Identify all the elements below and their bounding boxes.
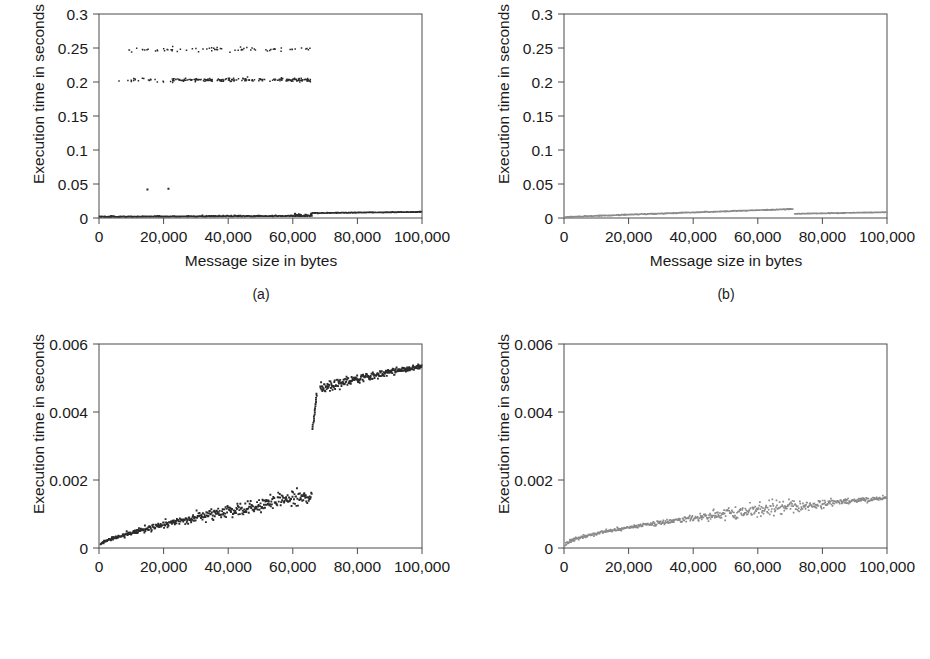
y-tick-label: 0.3: [531, 6, 553, 23]
y-tick-label: 0.25: [523, 40, 553, 57]
y-tick-label: 0.006: [49, 336, 88, 353]
scatter-points: [794, 211, 887, 215]
panel-a: 00.050.10.150.20.250.3020,00040,00060,00…: [0, 0, 465, 329]
scatter-points: [312, 393, 318, 430]
panel-b: 00.050.10.150.20.250.3020,00040,00060,00…: [465, 0, 930, 329]
x-axis-label-a: Message size in bytes: [99, 252, 423, 270]
x-tick-label: 0: [95, 558, 104, 575]
scatter-points: [564, 495, 887, 547]
y-tick-label: 0.1: [66, 142, 88, 159]
x-tick-label: 0: [95, 228, 104, 245]
plot-frame: [564, 14, 887, 218]
plot-frame: [564, 344, 887, 548]
data-point-group: [312, 393, 318, 430]
scatter-points: [128, 46, 310, 53]
y-tick-label: 0.05: [58, 176, 88, 193]
x-tick-label: 60,000: [734, 228, 782, 245]
y-tick-label: 0: [544, 540, 553, 557]
x-tick-label: 80,000: [799, 558, 847, 575]
scatter-points: [99, 211, 422, 218]
x-tick-label: 20,000: [140, 228, 188, 245]
data-point-group: [99, 211, 422, 218]
y-tick-label: 0.002: [49, 472, 88, 489]
y-tick-label: 0: [79, 540, 88, 557]
plot-svg-b: 00.050.10.150.20.250.3020,00040,00060,00…: [465, 0, 930, 260]
scatter-points: [100, 487, 313, 545]
plot-area-c: 00.0020.0040.006020,00040,00060,00080,00…: [0, 330, 465, 590]
y-tick-label: 0.004: [49, 404, 88, 421]
y-tick-label: 0: [544, 210, 553, 227]
y-tick-label: 0.15: [523, 108, 553, 125]
y-tick-label: 0.2: [66, 74, 88, 91]
scatter-points: [118, 76, 311, 83]
x-tick-label: 80,000: [334, 228, 382, 245]
panel-caption-a: (a): [99, 286, 423, 302]
data-point-group: [794, 211, 887, 215]
data-point-group: [319, 363, 422, 392]
data-point-group: [128, 46, 310, 53]
x-tick-label: 40,000: [204, 228, 252, 245]
x-tick-label: 20,000: [140, 558, 188, 575]
x-tick-label: 100,000: [859, 558, 915, 575]
scatter-points: [319, 363, 422, 392]
x-tick-label: 20,000: [605, 558, 653, 575]
y-tick-label: 0.3: [66, 6, 88, 23]
x-tick-label: 60,000: [269, 228, 317, 245]
x-tick-label: 0: [560, 558, 569, 575]
x-tick-label: 60,000: [734, 558, 782, 575]
x-tick-label: 100,000: [394, 228, 450, 245]
data-point-group: [564, 208, 794, 218]
y-axis-label-a: Execution time in seconds: [26, 0, 52, 224]
y-axis-label-d: Execution time in seconds: [491, 294, 517, 554]
x-tick-label: 40,000: [204, 558, 252, 575]
plot-frame: [99, 14, 422, 218]
plot-svg-a: 00.050.10.150.20.250.3020,00040,00060,00…: [0, 0, 465, 260]
y-tick-label: 0.15: [58, 108, 88, 125]
panel-caption-b: (b): [564, 286, 888, 302]
x-tick-label: 20,000: [605, 228, 653, 245]
plot-svg-c: 00.0020.0040.006020,00040,00060,00080,00…: [0, 330, 465, 590]
x-tick-label: 100,000: [859, 228, 915, 245]
x-tick-label: 0: [560, 228, 569, 245]
y-tick-label: 0.006: [514, 336, 553, 353]
x-tick-label: 40,000: [669, 228, 717, 245]
plot-area-b: 00.050.10.150.20.250.3020,00040,00060,00…: [465, 0, 930, 260]
y-tick-label: 0.2: [531, 74, 553, 91]
y-axis-label-c: Execution time in seconds: [26, 294, 52, 554]
x-tick-label: 40,000: [669, 558, 717, 575]
data-point-group: [564, 495, 887, 547]
data-point-group: [118, 76, 311, 83]
y-tick-label: 0.25: [58, 40, 88, 57]
x-axis-label-b: Message size in bytes: [564, 252, 888, 270]
data-point-group: [100, 487, 313, 545]
plot-area-d: 00.0020.0040.006020,00040,00060,00080,00…: [465, 330, 930, 590]
y-axis-label-b: Execution time in seconds: [491, 0, 517, 224]
y-tick-label: 0.05: [523, 176, 553, 193]
panel-c: 00.0020.0040.006020,00040,00060,00080,00…: [0, 330, 465, 659]
plot-area-a: 00.050.10.150.20.250.3020,00040,00060,00…: [0, 0, 465, 260]
figure-grid: 00.050.10.150.20.250.3020,00040,00060,00…: [0, 0, 930, 659]
x-tick-label: 80,000: [799, 228, 847, 245]
plot-svg-d: 00.0020.0040.006020,00040,00060,00080,00…: [465, 330, 930, 590]
x-tick-label: 80,000: [334, 558, 382, 575]
scatter-points: [146, 188, 169, 191]
y-tick-label: 0.1: [531, 142, 553, 159]
x-tick-label: 100,000: [394, 558, 450, 575]
x-tick-label: 60,000: [269, 558, 317, 575]
y-tick-label: 0: [79, 210, 88, 227]
data-point-group: [146, 188, 169, 191]
y-tick-label: 0.002: [514, 472, 553, 489]
y-tick-label: 0.004: [514, 404, 553, 421]
scatter-points: [564, 208, 794, 218]
panel-d: 00.0020.0040.006020,00040,00060,00080,00…: [465, 330, 930, 659]
